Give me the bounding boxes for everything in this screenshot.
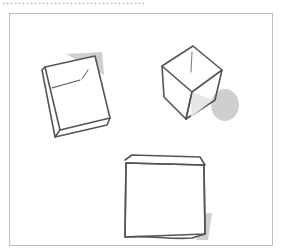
front-cube-bottom-icon <box>125 155 212 240</box>
isometric-cube-right-icon <box>162 46 239 121</box>
tilted-cube-left-icon <box>42 52 110 137</box>
cube-sketches <box>0 0 283 252</box>
